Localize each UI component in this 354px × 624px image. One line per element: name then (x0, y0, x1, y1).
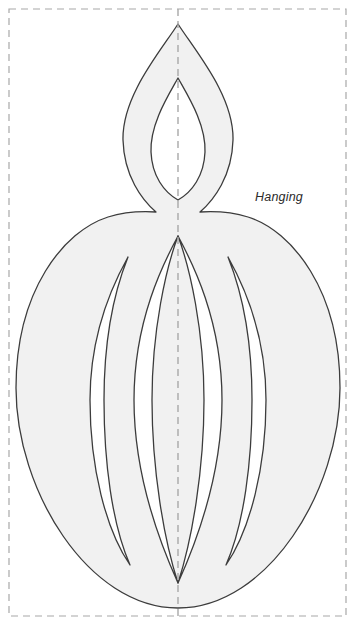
lantern-template-canvas: Hanging (0, 0, 354, 624)
template-page: Hanging (0, 0, 354, 624)
lantern-body-fill (0, 0, 354, 624)
hanging-label: Hanging (255, 190, 303, 204)
